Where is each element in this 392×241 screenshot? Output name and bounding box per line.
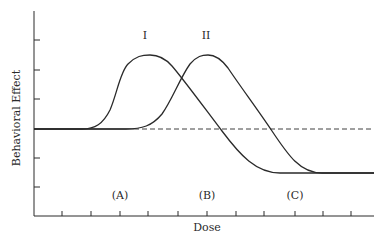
y-ticks [34,40,40,187]
x-ticks [62,211,351,216]
curve-i-label: I [143,30,147,42]
y-axis-label: Behavioral Effect [10,70,23,166]
region-c-label: (C) [287,190,304,202]
x-axis-label: Dose [193,222,221,234]
curve-ii-label: II [202,30,211,42]
curve-i [34,55,374,173]
region-b-label: (B) [199,190,216,202]
region-a-label: (A) [112,190,129,202]
chart-canvas [0,0,392,241]
curve-ii [34,55,374,173]
